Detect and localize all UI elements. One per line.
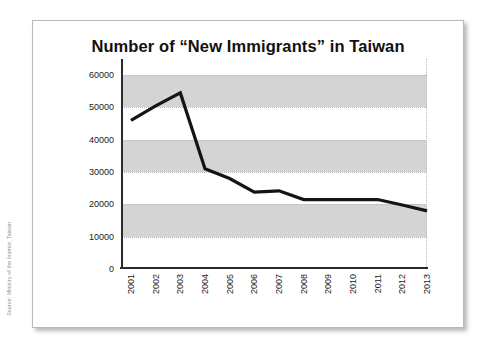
chart-title: Number of “New Immigrants” in Taiwan bbox=[33, 37, 463, 56]
data-series-line bbox=[121, 59, 427, 269]
y-axis-tick-label: 40000 bbox=[89, 135, 114, 145]
x-axis-tick-label: 2012 bbox=[397, 274, 407, 294]
y-axis-tick-label: 50000 bbox=[89, 102, 114, 112]
x-axis-tick-label: 2011 bbox=[373, 274, 383, 293]
plot-canvas: 0100002000030000400005000060000 20012002… bbox=[121, 59, 427, 269]
page-background: Source: Ministry of the Interior, Taiwan… bbox=[0, 0, 484, 358]
series-polyline bbox=[131, 93, 427, 211]
chart-plot-area: 0100002000030000400005000060000 20012002… bbox=[121, 59, 427, 269]
x-axis-tick-label: 2007 bbox=[274, 274, 284, 294]
x-axis-tick-label: 2005 bbox=[225, 274, 235, 294]
source-attribution-text: Source: Ministry of the Interior, Taiwan bbox=[7, 222, 12, 316]
x-axis-tick-label: 2010 bbox=[348, 274, 358, 294]
x-axis-tick-label: 2009 bbox=[323, 274, 333, 294]
x-axis-tick-label: 2003 bbox=[175, 274, 185, 294]
x-axis-tick-label: 2004 bbox=[200, 274, 210, 294]
y-axis-tick-label: 30000 bbox=[89, 167, 114, 177]
y-axis-tick-label: 10000 bbox=[89, 232, 114, 242]
y-axis-tick-label: 20000 bbox=[89, 199, 114, 209]
x-axis-tick-label: 2002 bbox=[151, 274, 161, 294]
x-axis-tick-label: 2006 bbox=[249, 274, 259, 294]
x-axis-tick-label: 2008 bbox=[299, 274, 309, 294]
x-axis-tick-label: 2013 bbox=[422, 274, 432, 294]
x-axis-tick-label: 2001 bbox=[126, 274, 136, 294]
chart-card: Number of “New Immigrants” in Taiwan 010… bbox=[32, 20, 464, 328]
source-attribution: Source: Ministry of the Interior, Taiwan bbox=[2, 222, 18, 334]
y-axis-tick-label: 60000 bbox=[89, 70, 114, 80]
y-axis-tick-label: 0 bbox=[109, 264, 114, 274]
